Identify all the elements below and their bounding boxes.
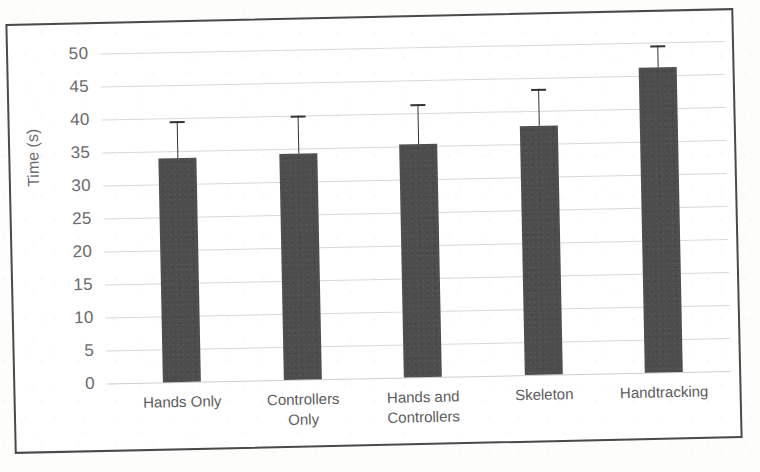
error-cap-handtracking: [650, 46, 665, 48]
x-axis-label-handtracking-line-1: Handtracking: [606, 381, 722, 403]
error-cap-skeleton: [531, 89, 546, 91]
x-axis-label-hands-and-controllers-line-2: Controllers: [365, 406, 481, 428]
error-bar-skeleton: [538, 89, 540, 125]
x-axis-label-skeleton-line-1: Skeleton: [486, 384, 602, 406]
y-tick-label-15: 15: [53, 275, 93, 296]
error-cap-hands-only: [170, 121, 185, 123]
y-tick-label-25: 25: [51, 209, 91, 230]
gridline-50: [100, 41, 724, 55]
y-tick-label-5: 5: [54, 341, 94, 362]
x-axis-label-controllers-only: Controllers Only: [245, 388, 362, 430]
chart-figure: Time (s) 50 45 40 35 30 25 20 15 10 5 0: [0, 0, 760, 472]
y-tick-label-10: 10: [53, 308, 93, 329]
bar-hands-only: [158, 157, 200, 382]
y-tick-label-30: 30: [51, 176, 91, 197]
bar-skeleton: [520, 125, 563, 375]
error-bar-handtracking: [657, 46, 658, 68]
y-tick-label-50: 50: [48, 44, 88, 65]
x-axis-label-controllers-only-line-1: Controllers: [245, 388, 361, 410]
error-bar-controllers-only: [298, 116, 300, 154]
error-bar-hands-and-controllers: [417, 105, 419, 145]
error-cap-controllers-only: [291, 115, 306, 117]
x-axis-label-hands-and-controllers-line-1: Hands and: [365, 386, 481, 408]
x-axis-label-handtracking: Handtracking: [606, 381, 722, 403]
error-cap-hands-and-controllers: [410, 104, 425, 106]
gridline-40: [102, 107, 726, 121]
y-tick-label-40: 40: [49, 110, 89, 131]
bar-hands-and-controllers: [399, 144, 442, 378]
y-axis-title: Time (s): [24, 129, 43, 187]
plot-area: 50 45 40 35 30 25 20 15 10 5 0 Hands Onl…: [100, 41, 730, 383]
x-axis-label-skeleton: Skeleton: [486, 384, 602, 406]
error-bar-hands-only: [177, 121, 179, 157]
y-tick-label-20: 20: [52, 242, 92, 263]
gridline-45: [101, 74, 725, 88]
y-tick-label-45: 45: [49, 77, 89, 98]
x-axis-label-hands-and-controllers: Hands and Controllers: [365, 386, 482, 428]
y-tick-label-35: 35: [50, 143, 90, 164]
x-axis-label-hands-only: Hands Only: [124, 391, 240, 413]
y-tick-label-0: 0: [55, 374, 95, 395]
bar-handtracking: [639, 67, 683, 373]
x-axis-label-controllers-only-line-2: Only: [245, 408, 361, 430]
bar-controllers-only: [279, 154, 322, 380]
x-axis-label-hands-only-line-1: Hands Only: [124, 391, 240, 413]
